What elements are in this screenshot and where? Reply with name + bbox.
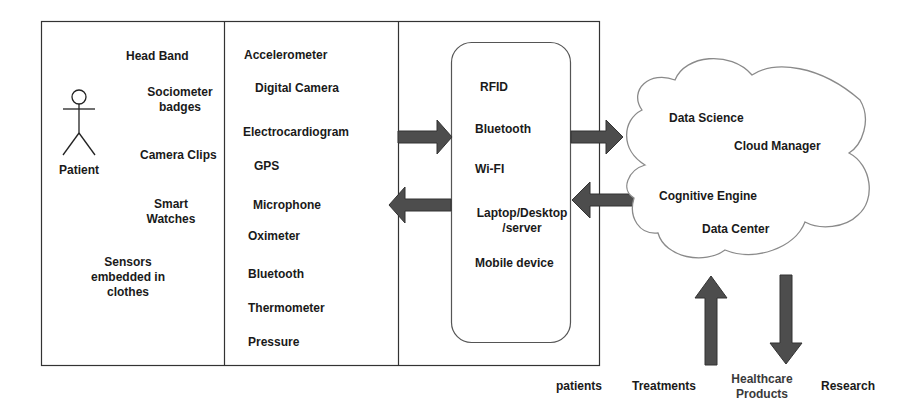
sensor-item: Digital Camera <box>255 81 339 96</box>
gateway-item: Bluetooth <box>475 122 531 137</box>
wearable-item: Sociometer badges <box>140 85 220 115</box>
cloud-item: Data Science <box>669 111 744 126</box>
wearable-item: Camera Clips <box>140 148 217 163</box>
gateway-item: Wi-FI <box>475 162 504 177</box>
sensor-item: Accelerometer <box>244 48 327 63</box>
sensor-item: Microphone <box>253 198 321 213</box>
arrow-right-icon <box>398 120 452 154</box>
actor-label: Patient <box>59 163 99 178</box>
sensor-item: Thermometer <box>248 301 325 316</box>
gateway-item: RFID <box>480 80 508 95</box>
cloud-item: Cognitive Engine <box>659 189 757 204</box>
output-item: Research <box>821 379 875 394</box>
wearable-item: Smart Watches <box>138 197 204 227</box>
cloud-item: Data Center <box>702 222 769 237</box>
sensor-item: Pressure <box>248 335 299 350</box>
arrow-right-icon <box>571 120 623 154</box>
wearable-item: Head Band <box>126 49 189 64</box>
output-item: Healthcare Products <box>724 372 800 402</box>
cloud-item: Cloud Manager <box>734 139 821 154</box>
arrow-left-icon <box>572 182 634 218</box>
arrow-up-icon <box>695 276 727 365</box>
sensor-item: Oximeter <box>248 229 300 244</box>
gateway-item: Mobile device <box>475 256 554 271</box>
patient-actor-icon <box>63 90 95 155</box>
gateway-item: Laptop/Desktop /server <box>470 206 574 236</box>
gateway-box <box>452 43 571 343</box>
sensor-item: Bluetooth <box>248 267 304 282</box>
output-item: Treatments <box>632 379 696 394</box>
sensor-item: GPS <box>254 159 279 174</box>
arrow-down-icon <box>770 275 802 364</box>
wearable-item: Sensors embedded in clothes <box>80 255 176 300</box>
sensor-item: Electrocardiogram <box>243 125 349 140</box>
output-item: patients <box>556 379 602 394</box>
